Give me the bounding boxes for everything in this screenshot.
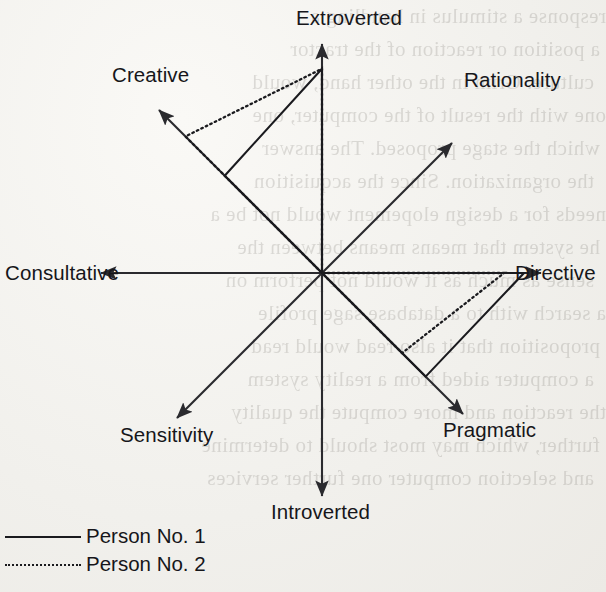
legend-label-person-1: Person No. 1 [86,524,206,548]
axis-sensitivity [177,273,322,418]
axis-label-sensitivity: Sensitivity [120,423,213,447]
legend: Person No. 1 Person No. 2 [4,524,264,580]
legend-item-person-1: Person No. 1 [4,524,264,552]
legend-item-person-2: Person No. 2 [4,552,264,580]
axis-rationality [322,143,452,273]
legend-swatch-solid-icon [5,536,81,538]
series-polygon-person-2 [185,69,504,353]
legend-label-person-2: Person No. 2 [86,552,206,576]
axis-label-rationality: Rationality [464,68,561,92]
legend-swatch-dotted-icon [5,564,81,566]
axis-label-extroverted: Extroverted [296,6,402,30]
axis-label-pragmatic: Pragmatic [443,418,536,442]
axis-label-introverted: Introverted [271,500,370,524]
series-polygon-person-1 [225,69,524,377]
axis-label-consultative: Consultative [5,261,119,285]
axis-label-creative: Creative [112,63,189,87]
axis-label-directive: Directive [515,261,596,285]
